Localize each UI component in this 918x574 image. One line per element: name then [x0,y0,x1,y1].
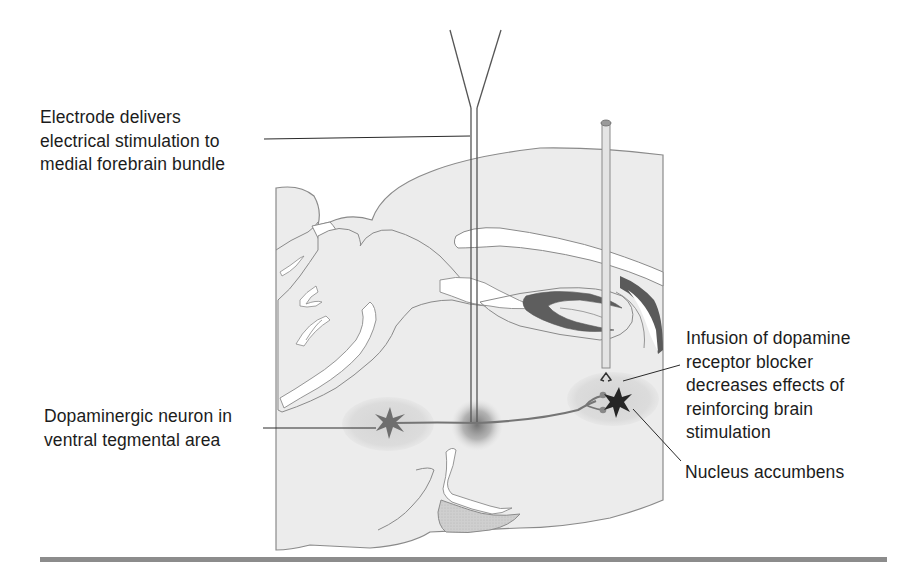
label-infusion-line-2: receptor blocker [686,351,850,375]
label-infusion: Infusion of dopamine receptor blocker de… [686,327,850,445]
infusion-cannula [601,120,611,381]
bottom-rule [40,557,887,562]
label-vta: Dopaminergic neuron in ventral tegmental… [44,405,232,452]
label-electrode-line-2: electrical stimulation to [40,130,225,154]
leader-line-electrode [264,136,470,139]
label-nucleus-accumbens: Nucleus accumbens [685,461,844,485]
label-electrode: Electrode delivers electrical stimulatio… [40,106,225,177]
label-electrode-line-3: medial forebrain bundle [40,153,225,177]
label-vta-line-1: Dopaminergic neuron in [44,405,232,429]
label-infusion-line-5: stimulation [686,421,850,445]
label-electrode-line-1: Electrode delivers [40,106,225,130]
brain-stimulation-figure: Electrode delivers electrical stimulatio… [0,0,918,574]
brain-diagram-svg [0,0,918,574]
label-vta-line-2: ventral tegmental area [44,429,232,453]
label-infusion-line-3: decreases effects of [686,374,850,398]
label-infusion-line-1: Infusion of dopamine [686,327,850,351]
axon-terminal-lower [600,407,607,414]
label-nucleus-accumbens-line-1: Nucleus accumbens [685,461,844,485]
label-infusion-line-4: reinforcing brain [686,398,850,422]
